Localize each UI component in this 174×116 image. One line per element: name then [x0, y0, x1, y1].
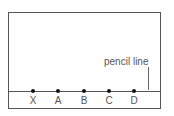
annotation-pointer-line — [148, 67, 149, 90]
spot-a — [56, 89, 60, 93]
label-b: B — [78, 96, 90, 106]
spot-b — [82, 89, 86, 93]
label-c: C — [103, 96, 115, 106]
spot-c — [107, 89, 111, 93]
label-x: X — [27, 96, 39, 106]
label-a: A — [52, 96, 64, 106]
spot-d — [132, 89, 136, 93]
label-d: D — [128, 96, 140, 106]
pencil-line-label: pencil line — [104, 56, 148, 67]
spot-x — [31, 89, 35, 93]
